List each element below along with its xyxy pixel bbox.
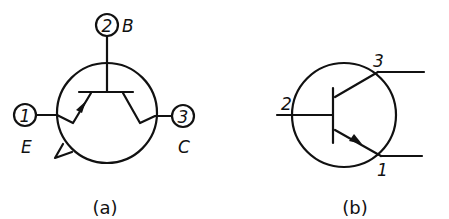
pin-number-collector-b: 3: [373, 51, 384, 71]
pin-number-base-a: 2: [102, 16, 113, 36]
pin-number-emitter-b: 1: [377, 160, 388, 180]
caption-b: (b): [342, 197, 367, 218]
pin-name-base-a: B: [122, 16, 134, 36]
pin-name-emitter-a: E: [21, 137, 32, 157]
pin-number-emitter-a: 1: [20, 106, 31, 126]
caption-a: (a): [92, 197, 117, 218]
emitter-arrow-icon-b: [349, 134, 362, 144]
pin-name-collector-a: C: [178, 137, 190, 157]
emitter-arrow-icon-a: [76, 101, 86, 113]
pin-number-collector-a: 3: [178, 107, 189, 127]
transistor-diagrams: 2 B 1 E 3 C (a) 2 3 1 (b): [0, 0, 449, 219]
diagram-a: 2 B 1 E 3 C (a): [14, 14, 194, 218]
pin-number-base-b: 2: [281, 94, 292, 114]
diagram-b: 2 3 1 (b): [277, 51, 424, 218]
collector-lead-b: [335, 72, 378, 97]
